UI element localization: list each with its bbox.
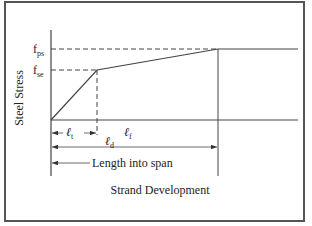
- strand-development-diagram: fps fse Steel Stress ℓt ℓf ℓd Length int…: [0, 0, 312, 226]
- y-axis-label: Steel Stress: [12, 70, 26, 126]
- fse-label: fse: [33, 63, 44, 79]
- lt-label: ℓt: [66, 125, 74, 141]
- figure-caption: Strand Development: [111, 183, 211, 197]
- fps-label: fps: [33, 42, 44, 58]
- stress-curve: [51, 49, 298, 120]
- length-into-span-label: Length into span: [92, 156, 173, 170]
- ld-label: ℓd: [105, 134, 114, 150]
- lf-label: ℓf: [124, 125, 132, 141]
